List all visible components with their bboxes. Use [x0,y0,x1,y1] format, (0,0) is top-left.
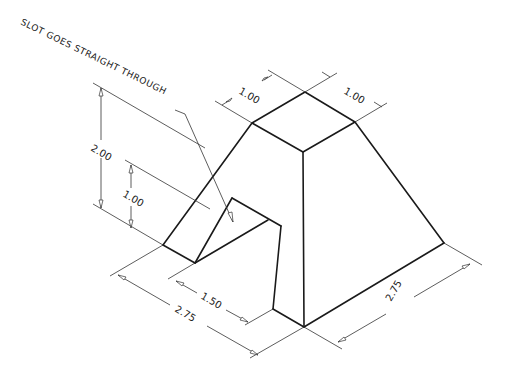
left-base-edge [163,245,195,263]
slot-floor-edge [195,220,268,263]
right-slope-edge [355,122,444,243]
dim-top-depth: 1.00 [237,85,262,106]
dimension-lines [99,72,470,355]
slot-step-edge [273,309,304,327]
dim-base-left: 2.75 [173,303,198,324]
drawing-canvas: 1.00 1.00 2.00 1.00 1.50 2.75 2.75 SLOT … [0,0,505,381]
left-slope-edge [163,123,252,245]
dim-slot-width: 1.50 [199,290,224,311]
slot-right-wall [273,226,281,309]
dim-base-right: 2.75 [383,278,404,303]
isometric-drawing: 1.00 1.00 2.00 1.00 1.50 2.75 2.75 SLOT … [0,0,505,381]
dim-slot-height: 1.00 [121,188,146,209]
dim-top-width: 1.00 [342,85,367,106]
slot-note: SLOT GOES STRAIGHT THROUGH [19,17,168,97]
right-base-edge [304,243,444,327]
top-face [252,92,355,152]
slot-top-edge [232,198,281,226]
front-edge [303,152,304,327]
